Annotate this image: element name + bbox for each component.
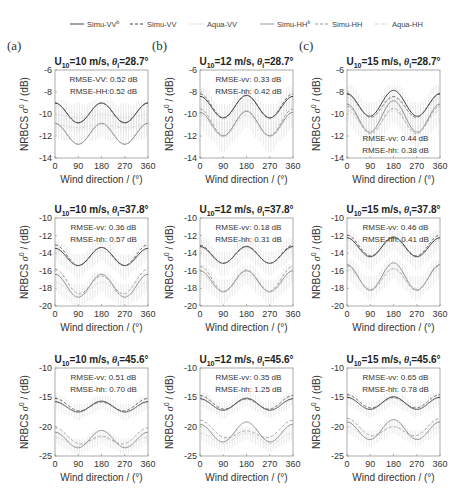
x-tick-label: 180 [94,309,109,319]
y-axis-label: NRBCS σ0 / (dB) [18,225,30,299]
x-tick-label: 360 [285,309,300,319]
y-tick-label: -6 [336,65,344,75]
x-tick-label: 270 [117,309,132,319]
legend-label: Aqua-VV [207,20,237,29]
plot-area [55,100,148,144]
y-tick-label: -8 [44,87,52,97]
x-tick-label: 270 [409,309,424,319]
y-tick-label: -12 [331,231,344,241]
y-tick-label: -10 [39,363,52,373]
legend-item: Simu-VVb [70,19,120,29]
x-tick-label: 270 [409,459,424,469]
y-tick-label: -18 [331,283,344,293]
y-tick-label: -14 [39,248,52,258]
y-axis-label: NRBCS σ0 / (dB) [310,77,322,151]
rmse-annotation: RMSE-vv: 0.35 dB [216,373,282,382]
x-tick-label: 360 [432,309,447,319]
y-tick-label: -16 [331,266,344,276]
panel-title: U10=10 m/s, θi=45.6° [54,354,148,367]
rmse-annotation: RMSE-hh: 0.38 dB [362,146,429,155]
x-axis-label: Wind direction / (°) [60,322,142,333]
rmse-annotation: RMSE-vv: 0.65 dB [363,373,429,382]
x-tick-label: 180 [239,309,254,319]
x-axis-label: Wind direction / (°) [205,174,287,185]
x-axis-label: Wind direction / (°) [352,322,434,333]
y-tick-label: -6 [44,65,52,75]
rmse-annotation: RMSE-vv: 0.18 dB [216,223,282,232]
y-tick-label: -10 [331,109,344,119]
x-tick-label: 90 [218,459,228,469]
y-tick-label: -8 [189,87,197,97]
y-tick-label: -12 [39,131,52,141]
x-tick-label: 270 [262,459,277,469]
x-axis-label: Wind direction / (°) [352,174,434,185]
y-tick-label: -20 [39,301,52,311]
x-tick-label: 90 [218,309,228,319]
x-tick-label: 0 [197,459,202,469]
rmse-annotation: RMSE-vv: 0.36 dB [71,223,137,232]
panel-letter: (c) [299,38,313,53]
x-axis-label: Wind direction / (°) [205,322,287,333]
y-tick-label: -14 [39,153,52,163]
x-tick-label: 0 [344,309,349,319]
y-tick-label: -10 [331,213,344,223]
x-tick-label: 90 [218,161,228,171]
x-tick-label: 270 [117,161,132,171]
x-tick-label: 360 [285,161,300,171]
panel-b1: U10=12 m/s, θi=28.7°-6-8-10-12-140901802… [163,56,301,185]
rmse-annotation: RMSE-VV: 0.52 dB [69,75,137,84]
x-tick-label: 360 [432,161,447,171]
x-tick-label: 0 [52,459,57,469]
y-tick-label: -10 [39,109,52,119]
y-tick-label: -12 [331,131,344,141]
panel-c3: U10=15 m/s, θi=45.6°-10-15-20-2509018027… [310,354,448,483]
rmse-annotation: RMSE-hh: 0.31 dB [215,235,282,244]
x-tick-label: 360 [140,309,155,319]
x-tick-label: 180 [386,309,401,319]
y-axis-label: NRBCS σ0 / (dB) [163,375,175,449]
y-tick-label: -10 [331,363,344,373]
panel-a3: U10=10 m/s, θi=45.6°-10-15-20-2509018027… [18,354,156,483]
x-tick-label: 270 [117,459,132,469]
y-tick-label: -15 [184,392,197,402]
y-tick-label: -12 [184,131,197,141]
y-tick-label: -20 [184,422,197,432]
plot-area [55,396,148,455]
legend-label: Simu-VVb [87,19,120,29]
x-tick-label: 270 [409,161,424,171]
y-tick-label: -14 [331,153,344,163]
y-tick-label: -12 [184,231,197,241]
panel-title: U10=15 m/s, θi=45.6° [346,354,440,367]
y-tick-label: -15 [331,392,344,402]
y-tick-label: -20 [331,422,344,432]
rmse-annotation: RMSE-vv: 0.33 dB [216,75,282,84]
y-tick-label: -18 [39,283,52,293]
rmse-annotation: RMSE-HH:0.52 dB [70,87,137,96]
x-tick-label: 0 [344,161,349,171]
x-tick-label: 90 [73,309,83,319]
legend: Simu-VVbSimu-VVAqua-VVSimu-HHbSimu-HHAqu… [70,19,423,29]
y-tick-label: -16 [39,266,52,276]
y-tick-label: -25 [184,451,197,461]
panel-b3: U10=12 m/s, θi=45.6°-10-15-20-2509018027… [163,354,301,483]
y-tick-label: -18 [184,283,197,293]
y-tick-label: -14 [331,248,344,258]
y-tick-label: -20 [331,301,344,311]
y-tick-label: -14 [184,153,197,163]
plot-area [347,392,440,447]
x-axis-label: Wind direction / (°) [205,472,287,483]
y-tick-label: -8 [336,87,344,97]
legend-item: Aqua-VV [190,20,237,29]
plot-area [55,240,148,308]
rmse-annotation: RMSE-hh: 1.25 dB [215,385,282,394]
panel-title: U10=12 m/s, θi=37.8° [199,204,293,217]
x-tick-label: 180 [94,161,109,171]
legend-item: Simu-VV [130,20,177,29]
panel-c1: U10=15 m/s, θi=28.7°-6-8-10-12-140901802… [310,56,448,185]
rmse-annotation: RMSE-hh: 0.42 dB [215,87,282,96]
x-tick-label: 0 [52,161,57,171]
x-tick-label: 180 [239,459,254,469]
panel-b2: U10=12 m/s, θi=37.8°-10-12-14-16-18-2009… [163,204,301,333]
y-axis-label: NRBCS σ0 / (dB) [18,77,30,151]
panel-title: U10=15 m/s, θi=37.8° [346,204,440,217]
